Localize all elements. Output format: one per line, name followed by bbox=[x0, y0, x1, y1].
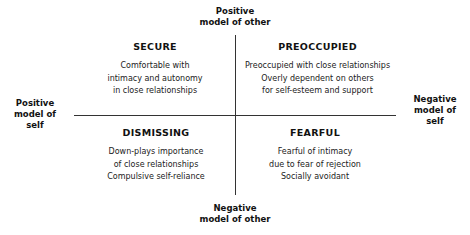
quadrant-title: PREOCCUPIED bbox=[240, 41, 395, 52]
axis-label-negative-other: Negative model of other bbox=[185, 203, 285, 225]
quadrant-title: SECURE bbox=[100, 41, 210, 52]
horizontal-axis-self bbox=[74, 115, 396, 116]
axis-label-positive-self: Positive model of self bbox=[0, 98, 70, 131]
quadrant-secure: SECURE Comfortable with intimacy and aut… bbox=[100, 41, 210, 98]
axis-label-negative-self: Negative model of self bbox=[400, 94, 470, 127]
quadrant-title: FEARFUL bbox=[260, 127, 370, 138]
quadrant-preoccupied: PREOCCUPIED Preoccupied with close relat… bbox=[240, 41, 395, 98]
axis-label-positive-other: Positive model of other bbox=[185, 6, 285, 28]
quadrant-dismissing: DISMISSING Down-plays importance of clos… bbox=[100, 127, 212, 184]
quadrant-title: DISMISSING bbox=[100, 127, 212, 138]
quadrant-fearful: FEARFUL Fearful of intimacy due to fear … bbox=[260, 127, 370, 184]
